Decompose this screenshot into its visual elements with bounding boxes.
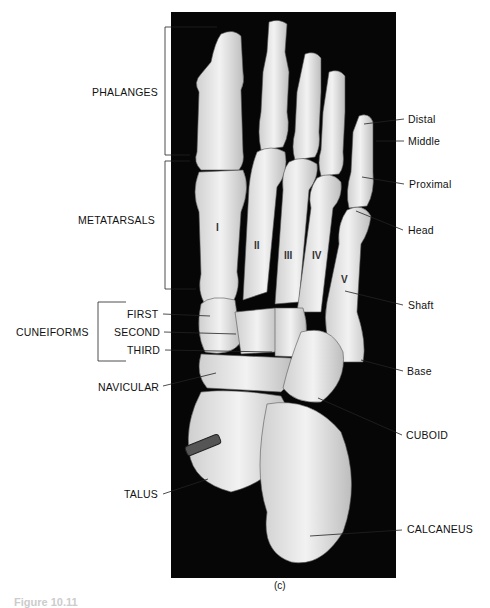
label-shaft: Shaft [408,299,434,311]
label-base: Base [407,365,432,377]
label-first-cuneiform: FIRST [127,308,158,320]
metatarsal-numeral-4: IV [312,250,321,261]
label-proximal: Proximal [409,178,451,190]
label-middle: Middle [408,135,440,147]
figure-caption-partial: Figure 10.11 [14,596,78,608]
foot-bones-illustration [171,12,396,578]
label-phalanges: PHALANGES [92,86,158,98]
label-metatarsals: METATARSALS [78,214,155,226]
label-distal: Distal [408,113,435,125]
metatarsal-numeral-5: V [341,274,348,285]
label-calcaneus: CALCANEUS [407,523,473,535]
foot-skeleton-photo: I II III IV V [171,12,396,578]
label-cuboid: CUBOID [406,429,448,441]
metatarsal-numeral-3: III [284,250,292,261]
metatarsal-numeral-2: II [254,240,260,251]
label-third-cuneiform: THIRD [127,344,160,356]
metatarsal-numeral-1: I [216,222,219,233]
label-navicular: NAVICULAR [98,381,159,393]
label-head: Head [408,224,434,236]
label-talus: TALUS [124,488,158,500]
panel-label: (c) [274,580,286,591]
label-second-cuneiform: SECOND [114,326,160,338]
label-cuneiforms: CUNEIFORMS [16,326,89,338]
